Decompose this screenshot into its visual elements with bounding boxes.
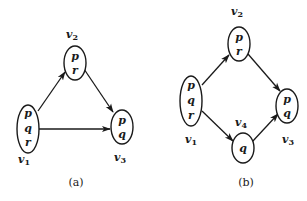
node-b-v4: q v4 xyxy=(232,116,254,163)
node-label-v2: v2 xyxy=(231,5,243,19)
edge-b-v4-v3 xyxy=(252,114,278,142)
figure-b: p q r v1 p r v2 p q v3 q v4 (b) xyxy=(180,5,298,189)
var-p: p xyxy=(283,93,291,106)
node-label-v1: v1 xyxy=(18,153,30,167)
figure-a: p q r v1 p r v2 p q v3 (a) xyxy=(17,28,133,189)
node-label-v2: v2 xyxy=(66,28,78,42)
var-q: q xyxy=(24,122,32,135)
node-a-v3: p q v3 xyxy=(111,110,133,165)
node-a-v2: p r v2 xyxy=(64,28,86,80)
edge-b-v1-v4 xyxy=(202,111,233,141)
var-q: q xyxy=(118,128,126,141)
figure-caption-a: (a) xyxy=(68,176,83,189)
edge-b-v1-v2 xyxy=(202,55,229,85)
node-b-v1: p q r v1 xyxy=(180,76,202,147)
edge-a-v1-v2 xyxy=(38,72,65,111)
edge-a-v2-v3 xyxy=(84,69,113,112)
node-b-v3: p q v3 xyxy=(276,89,298,147)
var-q: q xyxy=(187,94,195,107)
node-a-v1: p q r v1 xyxy=(17,105,39,167)
diagram-canvas: p q r v1 p r v2 p q v3 (a) p xyxy=(0,0,307,201)
node-label-v3: v3 xyxy=(114,151,126,165)
var-p: p xyxy=(24,107,32,120)
node-label-v4: v4 xyxy=(235,116,247,130)
node-label-v3: v3 xyxy=(282,133,294,147)
figure-caption-b: (b) xyxy=(238,176,254,189)
var-p: p xyxy=(235,31,243,44)
var-q: q xyxy=(283,107,291,120)
var-p: p xyxy=(187,79,195,92)
edge-b-v2-v3 xyxy=(248,54,280,91)
node-b-v2: p r v2 xyxy=(228,5,250,61)
var-p: p xyxy=(118,114,126,127)
var-p: p xyxy=(71,50,79,63)
node-label-v1: v1 xyxy=(185,133,197,147)
var-q: q xyxy=(239,142,247,155)
